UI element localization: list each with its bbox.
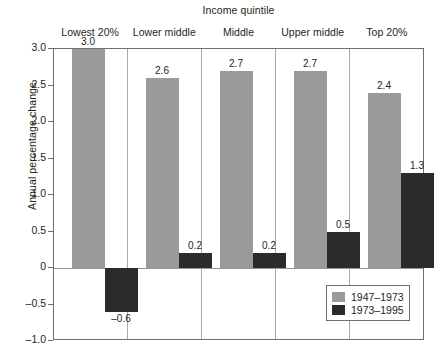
bar-value-label-4-0: 2.4 <box>364 80 404 91</box>
legend-swatch-1 <box>332 305 345 315</box>
bar-0-0[interactable] <box>72 49 105 268</box>
bar-4-1[interactable] <box>401 173 434 268</box>
bar-3-0[interactable] <box>294 71 327 268</box>
panel-1: 2.60.2 <box>128 49 202 339</box>
y-tick-label: 3.0 <box>31 41 46 53</box>
panel-label-strip: Lowest 20%Lower middleMiddleUpper middle… <box>53 26 424 46</box>
bar-2-0[interactable] <box>220 71 253 268</box>
bar-group: 2.60.2 <box>128 49 201 339</box>
legend-item-1[interactable]: 1973–1995 <box>332 303 404 316</box>
bar-group: 3.0–0.6 <box>54 49 127 339</box>
panel-2: 2.70.2 <box>202 49 276 339</box>
bar-4-0[interactable] <box>368 93 401 268</box>
bar-value-label-4-1: 1.3 <box>397 160 437 171</box>
y-axis-ticks: 3.02.52.01.51.00.50–0.5–1.0 <box>0 48 53 340</box>
legend-label-0: 1947–1973 <box>351 291 404 303</box>
y-tick-label: –0.5 <box>26 297 46 309</box>
panel-label-2: Middle <box>201 26 275 46</box>
panel-0: 3.0–0.6 <box>54 49 128 339</box>
panel-label-1: Lower middle <box>127 26 201 46</box>
bar-value-label-3-0: 2.7 <box>290 58 330 69</box>
legend: 1947–19731973–1995 <box>326 285 410 321</box>
y-tick-label: 1.5 <box>31 151 46 163</box>
legend-item-0[interactable]: 1947–1973 <box>332 290 404 303</box>
y-tick-mark <box>48 340 53 341</box>
bar-chart: Income quintile Lowest 20%Lower middleMi… <box>0 0 439 358</box>
bar-value-label-1-0: 2.6 <box>142 65 182 76</box>
y-tick-label: 0 <box>40 260 46 272</box>
legend-label-1: 1973–1995 <box>351 304 404 316</box>
y-tick-label: 0.5 <box>31 224 46 236</box>
bar-value-label-0-0: 3.0 <box>68 36 108 47</box>
bar-group: 2.70.2 <box>202 49 275 339</box>
y-tick-label: 2.0 <box>31 114 46 126</box>
chart-super-title: Income quintile <box>53 4 424 16</box>
y-tick-label: 2.5 <box>31 78 46 90</box>
y-tick-label: –1.0 <box>26 333 46 345</box>
bar-value-label-2-0: 2.7 <box>216 58 256 69</box>
panel-label-3: Upper middle <box>276 26 350 46</box>
y-tick-label: 1.0 <box>31 187 46 199</box>
legend-swatch-0 <box>332 292 345 302</box>
panel-label-4: Top 20% <box>350 26 424 46</box>
